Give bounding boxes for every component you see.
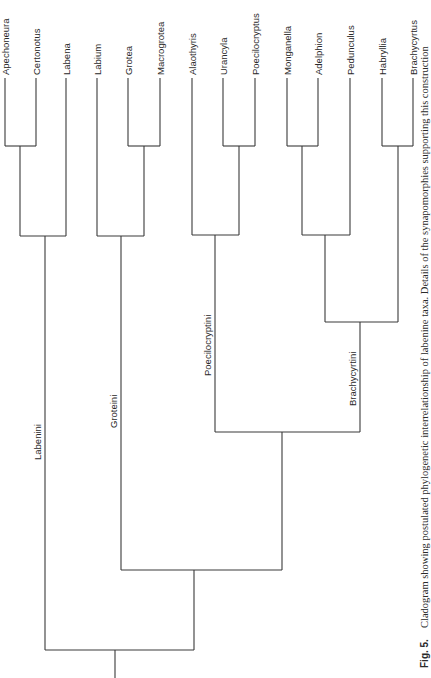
groteini-rest-junction bbox=[121, 570, 282, 650]
taxon-label-grotea: Grotea bbox=[123, 45, 134, 75]
taxon-label-certonotus: Certonotus bbox=[31, 28, 42, 75]
brachycyrtini-junction bbox=[325, 322, 398, 432]
taxon-label-alaothyris: Alaothyris bbox=[187, 33, 198, 75]
clade-label-poecilocryptini: Poecilocryptini bbox=[202, 315, 213, 376]
taxon-label-labium: Labium bbox=[92, 44, 103, 75]
caption-text: Cladogram showing postulated phylogeneti… bbox=[419, 45, 430, 628]
second-junctions bbox=[20, 235, 350, 650]
taxon-label-brachycyrtus: Brachycyrtus bbox=[408, 20, 419, 75]
taxon-label-labena: Labena bbox=[61, 43, 72, 75]
caption-fig-label: Fig. 5. bbox=[419, 639, 430, 668]
clade-label-labenini: Labenini bbox=[32, 424, 43, 460]
clade-label-groteini: Groteini bbox=[108, 395, 119, 428]
clade-labels: Labenini Groteini Poecilocryptini Brachy… bbox=[32, 315, 358, 460]
taxon-label-adelphion: Adelphion bbox=[313, 33, 324, 75]
svg-text:Fig. 5. Cladogram showin: Fig. 5. Cladogram showing postulated phy… bbox=[414, 45, 431, 668]
cladogram: Apechoneura Certonotus Labena Labium Gro… bbox=[0, 0, 431, 678]
taxon-label-monganella: Monganella bbox=[282, 25, 293, 75]
figure-caption: Fig. 5. Cladogram showing postulated phy… bbox=[414, 45, 431, 668]
taxon-label-apechoneura: Apechoneura bbox=[0, 18, 11, 75]
leaf-labels: Apechoneura Certonotus Labena Labium Gro… bbox=[0, 13, 419, 75]
root-junction bbox=[45, 650, 194, 678]
taxon-label-urancyla: Urancyla bbox=[218, 37, 229, 75]
taxon-label-poecilocryptus: Poecilocryptus bbox=[250, 13, 261, 75]
poec-brach-junction bbox=[215, 432, 360, 570]
taxon-label-macrogrotea: Macrogrotea bbox=[155, 21, 166, 75]
taxon-label-pedunculus: Pedunculus bbox=[345, 25, 356, 75]
clade-label-brachycyrtini: Brachycyrtini bbox=[347, 352, 358, 406]
taxon-label-habryllia: Habryllia bbox=[377, 37, 388, 75]
leaf-branches bbox=[5, 78, 413, 236]
